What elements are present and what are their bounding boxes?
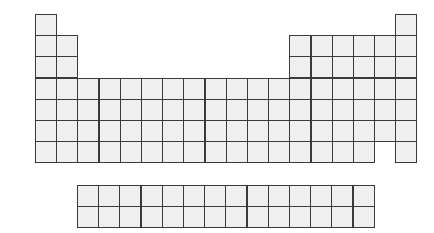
f-block-cell-r1-c14: [353, 185, 375, 207]
element-cell-p6-g15: [332, 120, 354, 142]
element-cell-p5-g13: [289, 99, 311, 121]
f-block-cell-r1-c6: [183, 185, 205, 207]
element-cell-p6-g16: [353, 120, 375, 142]
element-cell-p4-g4: [99, 78, 121, 100]
element-cell-p4-g18: [395, 78, 417, 100]
element-cell-p7-g13: [289, 141, 311, 163]
element-cell-p7-g18: [395, 141, 417, 163]
element-cell-p5-g5: [120, 99, 142, 121]
element-cell-p5-g9: [205, 99, 227, 121]
element-cell-p7-g16: [353, 141, 375, 163]
element-cell-p2-g2: [56, 35, 78, 57]
element-cell-p3-g18: [395, 56, 417, 78]
element-cell-p6-g13: [289, 120, 311, 142]
element-cell-p4-g8: [183, 78, 205, 100]
f-block-cell-r2-c3: [119, 206, 141, 228]
element-cell-p6-g7: [162, 120, 184, 142]
element-cell-p4-g6: [141, 78, 163, 100]
f-block-cell-r1-c4: [141, 185, 163, 207]
element-cell-p6-g4: [99, 120, 121, 142]
element-cell-p5-g8: [183, 99, 205, 121]
element-cell-p5-g16: [353, 99, 375, 121]
element-cell-p5-g1: [35, 99, 57, 121]
element-cell-p4-g3: [77, 78, 99, 100]
element-cell-p2-g16: [353, 35, 375, 57]
element-cell-p7-g15: [332, 141, 354, 163]
element-cell-p4-g7: [162, 78, 184, 100]
element-cell-p7-g12: [268, 141, 290, 163]
element-cell-p7-g14: [311, 141, 333, 163]
f-block-cell-r2-c11: [289, 206, 311, 228]
f-block-cell-r2-c13: [331, 206, 353, 228]
element-cell-p6-g5: [120, 120, 142, 142]
f-block-cell-r2-c5: [162, 206, 184, 228]
f-block-cell-r1-c7: [204, 185, 226, 207]
element-cell-p5-g2: [56, 99, 78, 121]
element-cell-p5-g14: [311, 99, 333, 121]
element-cell-p4-g10: [226, 78, 248, 100]
f-block-cell-r1-c8: [225, 185, 247, 207]
element-cell-p5-g4: [99, 99, 121, 121]
element-cell-p2-g18: [395, 35, 417, 57]
element-cell-p2-g1: [35, 35, 57, 57]
element-cell-p2-g13: [289, 35, 311, 57]
element-cell-p7-g2: [56, 141, 78, 163]
element-cell-p7-g8: [183, 141, 205, 163]
element-cell-p6-g1: [35, 120, 57, 142]
element-cell-p6-g12: [268, 120, 290, 142]
element-cell-p4-g14: [311, 78, 333, 100]
f-block-cell-r1-c12: [310, 185, 332, 207]
element-cell-p4-g9: [205, 78, 227, 100]
element-cell-p6-g18: [395, 120, 417, 142]
f-block-cell-r2-c12: [310, 206, 332, 228]
f-block-cell-r1-c5: [162, 185, 184, 207]
f-block-cell-r1-c13: [331, 185, 353, 207]
f-block-cell-r2-c4: [141, 206, 163, 228]
element-cell-p5-g18: [395, 99, 417, 121]
element-cell-p1-g18: [395, 14, 417, 36]
element-cell-p4-g15: [332, 78, 354, 100]
element-cell-p7-g3: [77, 141, 99, 163]
element-cell-p7-g9: [205, 141, 227, 163]
element-cell-p5-g10: [226, 99, 248, 121]
element-cell-p6-g8: [183, 120, 205, 142]
element-cell-p2-g17: [374, 35, 396, 57]
f-block-cell-r1-c9: [247, 185, 269, 207]
f-block-cell-r2-c9: [247, 206, 269, 228]
f-block-cell-r2-c2: [98, 206, 120, 228]
element-cell-p5-g15: [332, 99, 354, 121]
f-block-cell-r2-c10: [268, 206, 290, 228]
f-block-cell-r1-c10: [268, 185, 290, 207]
f-block-cell-r2-c6: [183, 206, 205, 228]
element-cell-p4-g13: [289, 78, 311, 100]
element-cell-p6-g2: [56, 120, 78, 142]
element-cell-p4-g2: [56, 78, 78, 100]
element-cell-p2-g15: [332, 35, 354, 57]
f-block-cell-r1-c1: [77, 185, 99, 207]
element-cell-p6-g17: [374, 120, 396, 142]
element-cell-p4-g5: [120, 78, 142, 100]
element-cell-p6-g14: [311, 120, 333, 142]
element-cell-p3-g14: [311, 56, 333, 78]
element-cell-p2-g14: [311, 35, 333, 57]
element-cell-p7-g6: [141, 141, 163, 163]
element-cell-p7-g5: [120, 141, 142, 163]
element-cell-p7-g1: [35, 141, 57, 163]
f-block-cell-r2-c7: [204, 206, 226, 228]
element-cell-p3-g17: [374, 56, 396, 78]
element-cell-p3-g2: [56, 56, 78, 78]
element-cell-p5-g11: [247, 99, 269, 121]
element-cell-p7-g7: [162, 141, 184, 163]
f-block-cell-r1-c11: [289, 185, 311, 207]
element-cell-p7-g11: [247, 141, 269, 163]
f-block-cell-r2-c1: [77, 206, 99, 228]
element-cell-p5-g17: [374, 99, 396, 121]
element-cell-p7-g4: [99, 141, 121, 163]
element-cell-p7-g10: [226, 141, 248, 163]
element-cell-p5-g6: [141, 99, 163, 121]
element-cell-p5-g7: [162, 99, 184, 121]
f-block-cell-r1-c2: [98, 185, 120, 207]
element-cell-p3-g1: [35, 56, 57, 78]
element-cell-p6-g3: [77, 120, 99, 142]
f-block-cell-r1-c3: [119, 185, 141, 207]
